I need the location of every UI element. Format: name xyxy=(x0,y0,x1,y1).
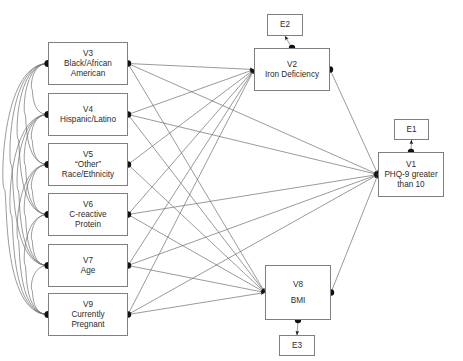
node-e1-label: E1 xyxy=(406,125,416,135)
node-e1[interactable]: E1 xyxy=(394,119,429,140)
edge-v3-to-v8 xyxy=(128,64,265,293)
node-v1-line-1: PHQ-9 greater xyxy=(384,170,437,180)
edge-v3-to-v2 xyxy=(128,64,254,70)
node-v2[interactable]: V2 Iron Deficiency xyxy=(254,48,330,91)
covariance-arc-layer xyxy=(3,64,48,315)
covariance-arc-v5-v7 xyxy=(24,165,48,266)
node-e3[interactable]: E3 xyxy=(279,335,315,356)
edge-v9-to-v2 xyxy=(128,70,254,315)
node-v4-line-0: V4 xyxy=(83,105,93,115)
edge-v9-to-v1 xyxy=(128,175,378,315)
edge-v5-to-v2 xyxy=(128,70,254,165)
covariance-arc-v3-v4 xyxy=(31,64,48,115)
edge-v2-to-e2 xyxy=(285,36,292,48)
node-v3-line-1: Black/African xyxy=(64,59,112,69)
covariance-arc-v4-v6 xyxy=(24,115,48,215)
path-diagram: V3 Black/African American V4 Hispanic/La… xyxy=(0,0,463,361)
node-v6-line-2: Protein xyxy=(75,220,101,230)
edge-v7-to-v8 xyxy=(128,266,265,293)
edge-v4-to-v1 xyxy=(128,115,378,175)
edge-v2-to-v1 xyxy=(330,70,378,175)
edge-v7-to-v2 xyxy=(128,70,254,266)
node-v3-line-0: V3 xyxy=(83,49,93,59)
covariance-arc-v4-v5 xyxy=(31,115,48,165)
node-v2-line-1: Iron Deficiency xyxy=(265,70,319,80)
covariance-arc-v4-v9 xyxy=(10,115,48,315)
edge-v4-to-v8 xyxy=(128,115,265,293)
node-v8-line-1: BMI xyxy=(291,296,306,306)
edge-v6-to-v1 xyxy=(128,175,378,215)
node-v3[interactable]: V3 Black/African American xyxy=(48,42,128,85)
edge-v6-to-v8 xyxy=(128,215,265,293)
edge-v8-to-v1 xyxy=(331,175,378,293)
node-v5-line-1: “Other” xyxy=(75,160,101,170)
edge-v5-to-v8 xyxy=(128,165,265,293)
node-v7-line-0: V7 xyxy=(83,256,93,266)
node-v2-line-0: V2 xyxy=(287,60,297,70)
edge-v1-to-e1 xyxy=(411,140,412,152)
node-v9-line-0: V9 xyxy=(83,300,93,310)
covariance-arc-v3-v7 xyxy=(10,64,48,266)
edge-v3-to-v1 xyxy=(128,64,378,175)
covariance-arc-v3-v5 xyxy=(24,64,48,165)
node-e3-label: E3 xyxy=(292,341,302,351)
node-v8-line-0: V8 xyxy=(293,280,303,290)
node-v4[interactable]: V4 Hispanic/Latino xyxy=(48,93,128,136)
node-v9[interactable]: V9 Currently Pregnant xyxy=(48,293,128,336)
node-v6-line-1: C-reactive xyxy=(69,210,106,220)
node-v5-line-2: Race/Ethnicity xyxy=(62,170,114,180)
node-e2[interactable]: E2 xyxy=(267,14,303,36)
covariance-arc-v7-v9 xyxy=(31,266,48,315)
covariance-arc-v3-v9 xyxy=(3,64,48,315)
covariance-arc-v6-v7 xyxy=(31,215,48,266)
node-e2-label: E2 xyxy=(280,20,290,30)
node-v1-line-2: than 10 xyxy=(397,180,424,190)
node-v9-line-1: Currently xyxy=(71,310,104,320)
node-v5[interactable]: V5 “Other” Race/Ethnicity xyxy=(48,143,128,186)
covariance-arc-v6-v9 xyxy=(24,215,48,315)
node-v5-line-0: V5 xyxy=(83,150,93,160)
covariance-arc-v5-v6 xyxy=(31,165,48,215)
node-v8[interactable]: V8 BMI xyxy=(265,265,331,320)
edge-v8-to-e3 xyxy=(297,320,298,335)
node-v7-line-1: Age xyxy=(81,266,96,276)
edge-v9-to-v8 xyxy=(128,293,265,315)
edge-v4-to-v2 xyxy=(128,70,254,115)
node-v1-line-0: V1 xyxy=(406,160,416,170)
node-v3-line-2: American xyxy=(71,69,106,79)
node-v6-line-0: V6 xyxy=(83,200,93,210)
node-v9-line-2: Pregnant xyxy=(71,320,104,330)
covariance-arc-v4-v7 xyxy=(17,115,48,266)
node-v1[interactable]: V1 PHQ-9 greater than 10 xyxy=(378,152,444,197)
node-v6[interactable]: V6 C-reactive Protein xyxy=(48,193,128,236)
edge-v6-to-v2 xyxy=(128,70,254,215)
node-v4-line-1: Hispanic/Latino xyxy=(60,115,116,125)
covariance-arc-v3-v6 xyxy=(17,64,48,215)
covariance-arc-v5-v9 xyxy=(17,165,48,315)
node-v7[interactable]: V7 Age xyxy=(48,244,128,287)
edge-v7-to-v1 xyxy=(128,175,378,266)
